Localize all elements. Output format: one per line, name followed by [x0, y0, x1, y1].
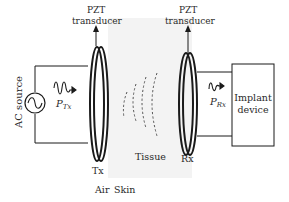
tx-label: Tx: [92, 165, 104, 176]
rx-transducer-label-1: PZT: [179, 5, 197, 15]
implant-label-1: Implant: [234, 92, 272, 103]
ultrasonic-link-diagram: AC source PTx PZT transducer PZT transdu…: [0, 0, 289, 202]
implant-label-2: device: [237, 104, 268, 115]
rx-power-wave-icon: [209, 83, 224, 91]
air-label: Air: [94, 184, 110, 195]
rx-label: Rx: [181, 153, 194, 164]
p-tx-label: PTx: [55, 98, 71, 111]
ac-source-label: AC source: [13, 76, 24, 129]
p-rx-label: PRx: [209, 96, 226, 109]
tx-power-wave-icon: [54, 82, 76, 94]
rx-transducer-label-2: transducer: [165, 16, 216, 26]
tx-transducer-label-1: PZT: [87, 5, 105, 15]
skin-label: Skin: [114, 184, 135, 195]
tx-transducer-label-2: transducer: [72, 16, 123, 26]
ac-source-icon: [25, 93, 45, 113]
tx-transducer-icon: [90, 47, 108, 161]
tissue-label: Tissue: [135, 151, 166, 162]
tx-arrow-icon: [93, 25, 99, 32]
